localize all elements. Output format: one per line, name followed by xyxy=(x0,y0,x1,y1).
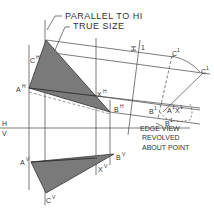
fold-label-h: H xyxy=(2,120,7,127)
label-x-v: X xyxy=(98,166,103,173)
proj-x1 xyxy=(96,96,200,110)
label-x-v-sup: V xyxy=(104,163,108,169)
label-a-h-sup: H xyxy=(22,83,26,89)
label-x-h-sup: H xyxy=(103,88,107,94)
label-c-h: C xyxy=(30,57,35,64)
label-b-h: B xyxy=(114,106,119,113)
label-a-v: A xyxy=(20,159,25,166)
label-b-1-sup: 1 xyxy=(154,105,157,111)
descriptive-geometry-drawing: PARALLEL TO HI TRUE SIZE EDGE VIEW REVOL… xyxy=(0,0,214,210)
leader-parallel xyxy=(47,16,62,30)
leader-true-size xyxy=(55,27,70,50)
callout-edge-2: REVOLVED xyxy=(142,134,180,141)
fold-label-v: V xyxy=(2,130,7,137)
label-b-v-sup: V xyxy=(122,151,126,157)
label-b-v: B xyxy=(116,154,121,161)
fold-label-h-aux: H xyxy=(130,46,137,51)
callout-edge-1: EDGE VIEW xyxy=(140,125,180,132)
callout-true-size: TRUE SIZE xyxy=(73,21,125,31)
label-x-h: X xyxy=(97,91,102,98)
label-b-h-sup: H xyxy=(120,103,124,109)
label-b-1r-sup: 1 xyxy=(170,117,173,123)
fold-line-h1 xyxy=(128,40,140,135)
label-c-v: C xyxy=(46,197,51,204)
fold-label-1: 1 xyxy=(141,44,145,51)
label-a-v-sup: V xyxy=(26,156,30,162)
label-a-h: A xyxy=(16,86,21,93)
label-x-1-sup: 1 xyxy=(180,104,183,110)
label-c-1-sup: 1 xyxy=(177,47,180,53)
label-c-1r-sup: 1 xyxy=(206,65,209,71)
callout-edge-3: ABOUT POINT xyxy=(142,144,190,151)
triangle-horizontal-view xyxy=(29,40,110,112)
label-c-v-sup: V xyxy=(52,194,56,200)
proj-b1 xyxy=(110,112,200,124)
callout-parallel: PARALLEL TO HI xyxy=(65,11,143,21)
label-c-h-sup: H xyxy=(36,54,40,60)
